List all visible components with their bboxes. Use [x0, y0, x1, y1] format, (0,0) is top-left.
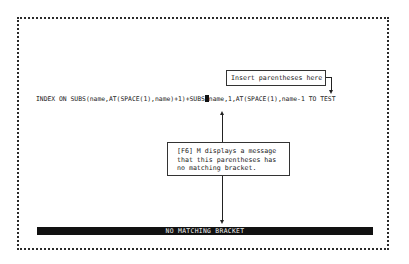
command-text-before-cursor: INDEX ON SUBS(name,AT(SPACE(1),name)+1)+… — [36, 95, 205, 103]
callout-connector-vertical — [331, 77, 332, 91]
status-bar: NO MATCHING BRACKET — [37, 227, 373, 235]
arrow-down-icon — [220, 220, 224, 224]
insert-parentheses-callout: Insert parentheses here — [226, 70, 326, 86]
arrow-line-upper — [222, 114, 223, 142]
arrow-line-lower — [222, 176, 223, 221]
command-text-after-cursor: name,1,AT(SPACE(1),name-1 TO TEST — [209, 95, 336, 103]
screen-frame — [17, 17, 389, 250]
arrow-down-icon — [329, 90, 333, 94]
no-matching-bracket-callout: [F6] M displays a message that this pare… — [167, 142, 290, 176]
command-line[interactable]: INDEX ON SUBS(name,AT(SPACE(1),name)+1)+… — [36, 95, 336, 103]
